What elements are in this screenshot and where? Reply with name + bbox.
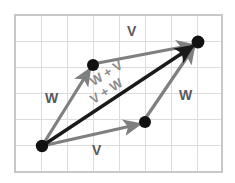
- dot-lower-node: [139, 116, 151, 128]
- label-w-right: W: [179, 88, 192, 102]
- vector-addition-figure: V W W V W + V V + W: [0, 0, 235, 183]
- dot-terminus: [192, 36, 205, 49]
- dot-origin: [36, 140, 48, 152]
- label-v-top: V: [127, 24, 136, 38]
- label-w-left: W: [45, 91, 58, 105]
- label-v-bottom: V: [92, 143, 101, 157]
